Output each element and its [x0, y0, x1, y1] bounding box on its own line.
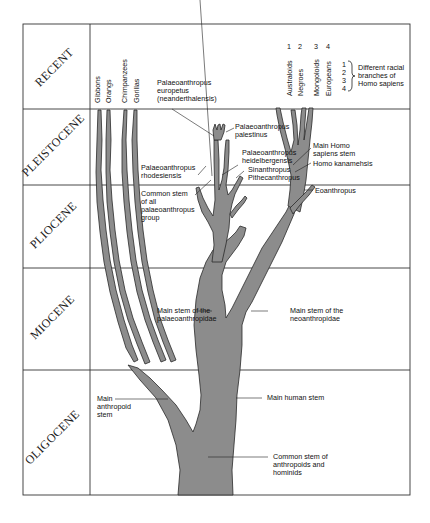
- era-label-miocene: MIOCENE: [27, 292, 77, 342]
- race-number-4: 4: [326, 42, 330, 51]
- race-labels: 1 2 3 4 Australoids Negroes Mongoloids E…: [285, 42, 405, 96]
- label-anthropoid-stem-3: stem: [97, 410, 113, 419]
- race-number-3: 3: [314, 42, 318, 51]
- era-labels: RECENT PLEISTOCENE PLIOCENE MIOCENE OLIG…: [19, 45, 87, 468]
- legend-text-line-3: Homo sapiens: [358, 79, 404, 88]
- label-gorillas: Gorillas: [132, 78, 141, 103]
- evolution-tree-diagram: RECENT PLEISTOCENE PLIOCENE MIOCENE OLIG…: [0, 0, 430, 523]
- label-main-human-stem: Main human stem: [267, 393, 324, 402]
- label-rhodesiensis-2: rhodesiensis: [141, 171, 182, 180]
- label-palaeo-stem-2: palaeoanthropidae: [157, 314, 217, 323]
- label-homo-kanamensis: Homo kanamehsis: [313, 159, 373, 168]
- label-orangs: Orangs: [104, 79, 113, 103]
- label-negroes: Negroes: [296, 68, 305, 96]
- common-stem-shape: [128, 200, 298, 495]
- label-gibbons: Gibbons: [93, 76, 102, 103]
- ape-labels: Gibbons Orangs Chimpanzees Gorillas: [93, 59, 141, 103]
- era-label-pliocene: PLIOCENE: [27, 199, 80, 252]
- label-eoanthropus: Eoanthropus: [315, 186, 356, 195]
- era-label-recent: RECENT: [32, 45, 76, 89]
- label-main-homo-2: sapiens stem: [313, 149, 355, 158]
- label-mongoloids: Mongoloids: [312, 59, 321, 96]
- label-australoids: Australoids: [285, 60, 294, 96]
- label-palestinus-2: palestinus: [235, 130, 268, 139]
- neanderthal-branch: [213, 124, 225, 140]
- label-neo-stem-2: neoanthropidae: [290, 314, 340, 323]
- era-label-oligocene: OLIGOCENE: [22, 407, 82, 467]
- legend-number-4: 4: [342, 84, 346, 93]
- label-neanderthal-3: (neanderthalensis): [157, 94, 217, 103]
- race-number-2: 2: [298, 42, 302, 51]
- label-pithecanthropus: Pithecanthropus: [248, 173, 300, 182]
- era-label-pleistocene: PLEISTOCENE: [19, 111, 87, 179]
- label-heidelbergensis-2: heidelbergensis: [242, 156, 293, 165]
- label-common-palaeo-4: group: [141, 213, 159, 222]
- brace-icon: [348, 61, 355, 91]
- label-europeans: Europeans: [324, 61, 333, 96]
- race-number-1: 1: [287, 42, 291, 51]
- label-common-stem-3: hominids: [273, 468, 302, 477]
- label-chimpanzees: Chimpanzees: [120, 59, 129, 103]
- gorilla-branch: [132, 110, 176, 362]
